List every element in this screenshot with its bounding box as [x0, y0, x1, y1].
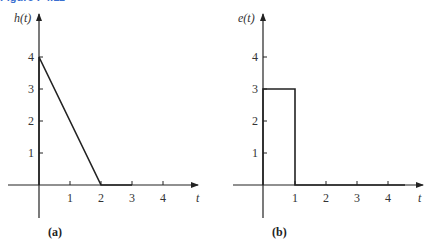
plot-b: 1 2 3 4 1 2 3 4 t e(t) (b) [233, 11, 423, 239]
x-tick-label: 4 [385, 191, 391, 205]
plot-a: 1 2 3 4 1 2 3 4 t h(t) (a) [8, 11, 200, 239]
y-tick-label: 3 [252, 82, 258, 96]
y-tick-label: 1 [28, 146, 34, 160]
x-tick-label: 1 [67, 191, 73, 205]
y-axis-label: e(t) [238, 11, 255, 25]
x-tick-label: 3 [354, 191, 360, 205]
y-axis-label: h(t) [14, 11, 31, 25]
y-tick-label: 1 [252, 146, 258, 160]
y-tick-label: 3 [28, 82, 34, 96]
subplot-label-b: (b) [272, 225, 287, 239]
y-tick-label: 2 [252, 114, 258, 128]
x-tick-label: 1 [292, 191, 298, 205]
subplot-label-a: (a) [48, 225, 62, 239]
x-tick-label: 4 [160, 191, 166, 205]
y-tick-label: 4 [28, 50, 34, 64]
x-tick-label: 2 [323, 191, 329, 205]
y-tick-label: 4 [252, 50, 258, 64]
x-tick-label: 3 [129, 191, 135, 205]
e-curve [263, 89, 405, 185]
x-tick-label: 2 [98, 191, 104, 205]
figure-canvas: 1 2 3 4 1 2 3 4 t h(t) (a) 1 2 3 4 [0, 0, 430, 246]
x-axis-label: t [196, 191, 200, 205]
x-axis-label: t [418, 191, 422, 205]
h-curve [39, 57, 132, 185]
y-tick-label: 2 [28, 114, 34, 128]
